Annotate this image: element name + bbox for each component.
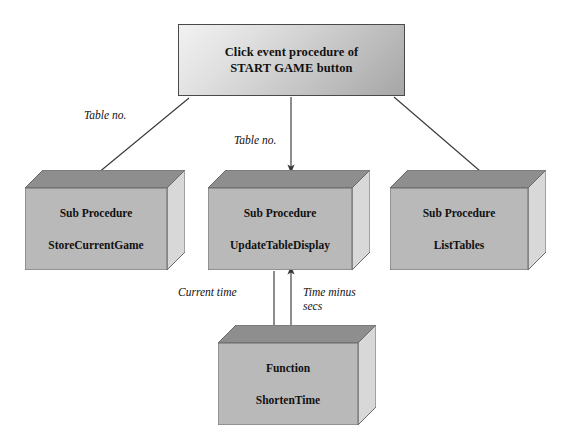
- node-kind: Function: [266, 362, 310, 374]
- node-label-wrap: Sub Procedure UpdateTableDisplay: [208, 188, 352, 270]
- click-event-procedure-box[interactable]: Click event procedure of START GAME butt…: [178, 24, 405, 96]
- node-name: UpdateTableDisplay: [230, 239, 330, 251]
- node-kind: Sub Procedure: [244, 207, 317, 219]
- node-name: StoreCurrentGame: [48, 239, 143, 251]
- node-label-wrap: Sub Procedure StoreCurrentGame: [25, 188, 167, 270]
- node-store-current-game[interactable]: Sub Procedure StoreCurrentGame: [25, 170, 185, 270]
- edge-label-current-time: Current time: [178, 285, 237, 299]
- node-label-wrap: Function ShortenTime: [218, 343, 358, 425]
- node-shorten-time[interactable]: Function ShortenTime: [218, 325, 376, 425]
- node-name: ShortenTime: [256, 394, 320, 406]
- diagram-canvas: Click event procedure of START GAME butt…: [0, 0, 579, 445]
- edge-label-time-minus-secs: Time minus secs: [303, 285, 356, 313]
- edge-label-left-table-no: Table no.: [84, 108, 126, 122]
- node-update-table-display[interactable]: Sub Procedure UpdateTableDisplay: [208, 170, 370, 270]
- node-list-tables[interactable]: Sub Procedure ListTables: [390, 170, 546, 270]
- node-name: ListTables: [434, 239, 485, 251]
- edge-label-middle-table-no: Table no.: [234, 133, 276, 147]
- edge-top-to-listtables: [394, 97, 487, 177]
- title-line-2: START GAME button: [230, 60, 352, 76]
- title-line-1: Click event procedure of: [225, 44, 359, 60]
- node-label-wrap: Sub Procedure ListTables: [390, 188, 528, 270]
- node-kind: Sub Procedure: [60, 207, 133, 219]
- node-kind: Sub Procedure: [423, 207, 496, 219]
